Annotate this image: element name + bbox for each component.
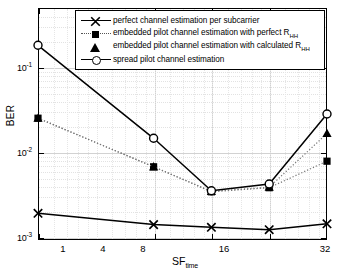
x-tick-label: 8 (128, 243, 158, 254)
legend-item-perfect-channel-estimation: perfect channel estimation per subcarrie… (79, 14, 320, 27)
legend-label-base: embedded pilot channel estimation with p… (113, 28, 289, 37)
grid-line-minor-x (54, 9, 55, 239)
y-tick-label: 10-2 (2, 146, 32, 158)
y-tick-mark (321, 238, 326, 239)
y-axis-label: BER (5, 86, 16, 146)
legend-symbol-square-marker (79, 27, 113, 40)
x-tick-mark (212, 234, 213, 239)
legend-symbol-triangle-marker (79, 40, 113, 53)
x-tick-mark (155, 234, 156, 239)
x-tick-label: 1 (48, 243, 78, 254)
x-tick-label: 32 (310, 243, 340, 254)
legend-item-spread-pilot: spread pilot channel estimation (79, 53, 320, 66)
x-tick-label: 4 (88, 243, 118, 254)
legend-symbol-circle-marker (79, 53, 113, 66)
legend-label: embedded pilot channel estimation with c… (113, 41, 310, 52)
y-tick-label: 10-1 (2, 61, 32, 73)
y-tick-mark (39, 68, 44, 69)
legend-label: spread pilot channel estimation (113, 55, 224, 64)
legend: perfect channel estimation per subcarrie… (75, 10, 325, 70)
legend-item-embedded-perfect-rhh: embedded pilot channel estimation with p… (79, 27, 320, 40)
x-tick-mark (270, 234, 271, 239)
x-tick-label: 16 (209, 243, 239, 254)
x-tick-mark (39, 9, 40, 14)
legend-symbol-x-marker (79, 14, 113, 27)
legend-item-embedded-calculated-rhh: embedded pilot channel estimation with c… (79, 40, 320, 53)
legend-label-base: embedded pilot channel estimation with c… (113, 41, 301, 50)
legend-label-sub: HH (301, 46, 310, 52)
y-tick-label: 10-3 (2, 231, 32, 243)
legend-label: embedded pilot channel estimation with p… (113, 28, 298, 39)
y-tick-mark (39, 238, 44, 239)
x-axis-label: SFtime (155, 255, 215, 269)
legend-label-sub: HH (289, 33, 298, 39)
y-tick-mark (321, 153, 326, 154)
y-tick-mark (39, 153, 44, 154)
x-axis-label-sub: time (185, 262, 197, 269)
x-axis-label-base: SF (172, 255, 185, 267)
legend-label: perfect channel estimation per subcarrie… (113, 16, 259, 25)
grid-line-minor-x (67, 9, 68, 239)
chart-figure: 10-1 10-2 10-3 1 4 8 16 32 BER SFtime pe… (0, 0, 340, 272)
